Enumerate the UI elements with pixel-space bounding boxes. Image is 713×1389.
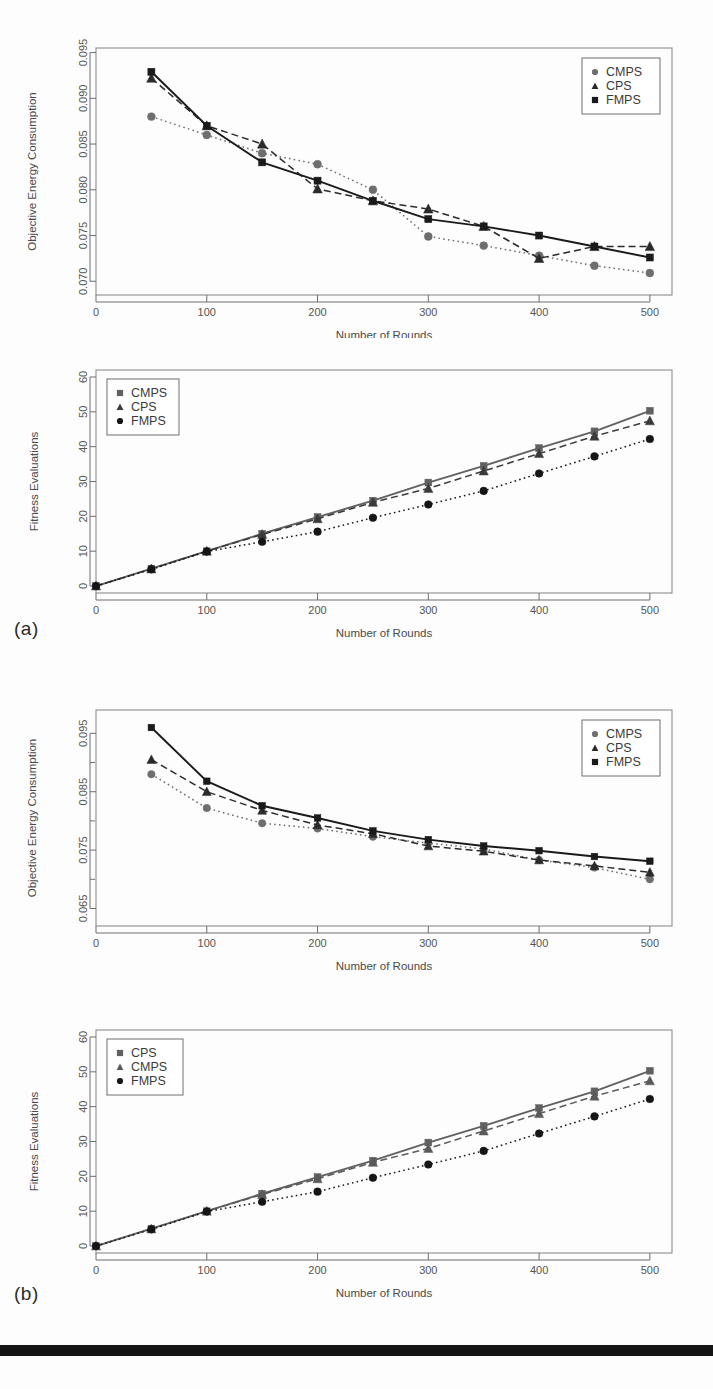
series-line bbox=[96, 1099, 650, 1246]
data-point bbox=[646, 876, 653, 883]
data-point bbox=[203, 804, 210, 811]
y-tick-label: 50 bbox=[77, 1066, 89, 1078]
data-point bbox=[536, 847, 543, 854]
data-point bbox=[645, 416, 654, 425]
data-point bbox=[369, 186, 377, 194]
chart-a-energy-svg: 0.0700.0750.0800.0850.0900.0950100200300… bbox=[0, 18, 713, 338]
x-tick-label: 400 bbox=[530, 1264, 548, 1276]
data-point bbox=[646, 1067, 653, 1074]
data-point bbox=[148, 770, 155, 777]
data-point bbox=[259, 802, 266, 809]
data-point bbox=[370, 828, 377, 835]
series-line bbox=[151, 72, 649, 258]
data-point bbox=[646, 254, 653, 261]
y-tick-label: 40 bbox=[77, 1101, 89, 1113]
y-axis-title: Fitness Evaluations bbox=[28, 431, 40, 531]
data-point bbox=[646, 269, 654, 277]
data-point bbox=[202, 787, 211, 796]
legend-marker-circle bbox=[592, 731, 598, 737]
y-tick-label: 30 bbox=[77, 475, 89, 487]
chart-b-energy-figure: 0.0650.0750.0850.0950100200300400500Numb… bbox=[0, 678, 713, 998]
y-axis: 0102030405060 bbox=[77, 1031, 96, 1249]
data-point bbox=[424, 232, 432, 240]
data-point bbox=[647, 858, 654, 865]
y-tick-label: 0.095 bbox=[77, 720, 89, 748]
y-tick-label: 0.095 bbox=[77, 39, 89, 67]
legend-label: CMPS bbox=[606, 727, 642, 741]
x-tick-label: 200 bbox=[308, 306, 326, 318]
chart-b-fitness-svg: 01020304050600100200300400500Number of R… bbox=[0, 1000, 713, 1310]
x-tick-label: 400 bbox=[530, 306, 548, 318]
y-tick-label: 0.085 bbox=[77, 130, 89, 158]
x-tick-label: 0 bbox=[93, 604, 99, 616]
y-tick-label: 0.065 bbox=[77, 895, 89, 923]
data-point bbox=[480, 843, 487, 850]
x-axis-title: Number of Rounds bbox=[336, 627, 433, 639]
x-tick-label: 200 bbox=[308, 1264, 326, 1276]
y-tick-label: 30 bbox=[77, 1135, 89, 1147]
data-point bbox=[646, 1095, 654, 1103]
data-point bbox=[424, 1161, 432, 1169]
chart-b-fitness-figure: 01020304050600100200300400500Number of R… bbox=[0, 1000, 713, 1310]
legend-label: FMPS bbox=[606, 755, 641, 769]
y-tick-label: 40 bbox=[77, 441, 89, 453]
series-cmps bbox=[91, 1076, 654, 1250]
y-axis: 0.0650.0750.0850.095 bbox=[77, 720, 96, 923]
data-point bbox=[148, 68, 155, 75]
data-point bbox=[425, 836, 432, 843]
y-tick-label: 10 bbox=[77, 545, 89, 557]
series-line bbox=[96, 439, 650, 586]
series-fmps bbox=[148, 724, 653, 864]
data-point bbox=[258, 1198, 266, 1206]
data-point bbox=[369, 197, 376, 204]
x-tick-label: 400 bbox=[530, 604, 548, 616]
figure-page: 0.0700.0750.0800.0850.0900.0950100200300… bbox=[0, 0, 713, 1389]
legend-label: FMPS bbox=[131, 1074, 166, 1088]
legend-label: CPS bbox=[606, 741, 632, 755]
data-point bbox=[203, 548, 211, 556]
panel-label-b: (b) bbox=[14, 1283, 39, 1305]
data-point bbox=[646, 435, 654, 443]
legend-marker-square bbox=[592, 97, 598, 103]
series-cps bbox=[91, 416, 654, 590]
data-point bbox=[148, 565, 156, 573]
legend: CPSCMPSFMPS bbox=[107, 1039, 183, 1095]
data-point bbox=[536, 232, 543, 239]
panel-label-a: (a) bbox=[14, 618, 39, 640]
x-tick-label: 0 bbox=[93, 937, 99, 949]
x-tick-label: 100 bbox=[198, 1264, 216, 1276]
x-tick-label: 500 bbox=[641, 937, 659, 949]
y-tick-label: 0.090 bbox=[77, 85, 89, 113]
series-fmps bbox=[148, 68, 654, 261]
legend-label: CPS bbox=[606, 79, 632, 93]
x-axis: 0100200300400500 bbox=[93, 295, 659, 318]
data-point bbox=[425, 216, 432, 223]
data-point bbox=[203, 1208, 211, 1216]
data-point bbox=[646, 407, 653, 414]
legend-label: FMPS bbox=[606, 93, 641, 107]
data-point bbox=[203, 131, 211, 139]
chart-a-energy-figure: 0.0700.0750.0800.0850.0900.0950100200300… bbox=[0, 18, 713, 338]
legend-marker-circle bbox=[592, 69, 598, 75]
data-point bbox=[590, 262, 598, 270]
data-point bbox=[480, 242, 488, 250]
x-axis: 0100200300400500 bbox=[93, 926, 659, 949]
x-tick-label: 300 bbox=[419, 937, 437, 949]
series-line bbox=[151, 78, 649, 258]
series-cmps bbox=[148, 770, 654, 883]
x-tick-label: 500 bbox=[641, 1264, 659, 1276]
x-tick-label: 100 bbox=[198, 937, 216, 949]
legend-marker-circle bbox=[117, 1078, 123, 1084]
data-point bbox=[480, 223, 487, 230]
x-tick-label: 300 bbox=[419, 1264, 437, 1276]
data-point bbox=[535, 1130, 543, 1138]
data-point bbox=[369, 1174, 377, 1182]
data-point bbox=[645, 1076, 654, 1085]
y-tick-label: 0 bbox=[77, 1243, 89, 1249]
x-tick-label: 0 bbox=[93, 306, 99, 318]
data-point bbox=[259, 159, 266, 166]
legend-label: CMPS bbox=[606, 65, 642, 79]
data-point bbox=[314, 160, 322, 168]
data-point bbox=[591, 453, 599, 461]
data-point bbox=[314, 1188, 322, 1196]
